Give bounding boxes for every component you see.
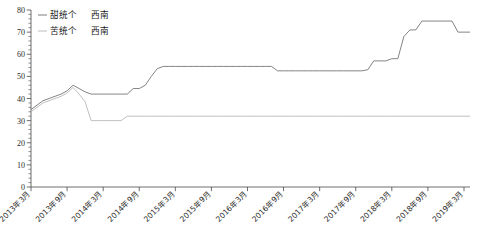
x-axis-tick-label: 2013年9月 xyxy=(33,188,68,223)
y-axis-tick-label: 60 xyxy=(17,50,25,59)
line-chart: 010203040506070802013年3月2013年9月2014年3月20… xyxy=(0,0,478,240)
y-axis-tick-label: 20 xyxy=(17,139,25,148)
x-axis-tick-label: 2015年3月 xyxy=(141,188,176,223)
y-axis-tick-label: 40 xyxy=(17,95,25,104)
x-axis-tick-label: 2019年3月 xyxy=(430,188,465,223)
y-axis-tick-label: 70 xyxy=(17,28,25,37)
x-axis-tick-label: 2017年3月 xyxy=(286,188,321,223)
x-axis-tick-label: 2016年3月 xyxy=(213,188,248,223)
y-axis-tick-label: 50 xyxy=(17,72,25,81)
legend-region-1: 西南 xyxy=(91,9,109,20)
x-axis-tick-label: 2014年3月 xyxy=(69,188,104,223)
x-axis-tick-label: 2018年9月 xyxy=(394,188,429,223)
x-axis-tick-label: 2017年9月 xyxy=(322,188,357,223)
x-axis-tick-label: 2015年9月 xyxy=(177,188,212,223)
legend-label-1: 甜统个 xyxy=(50,9,77,20)
x-axis-tick-label: 2013年3月 xyxy=(0,188,32,223)
legend-label-2: 苦统个 xyxy=(50,25,77,36)
x-axis-tick-label: 2016年9月 xyxy=(250,188,285,223)
y-axis-tick-label: 10 xyxy=(17,161,25,170)
x-axis-tick-label: 2014年9月 xyxy=(105,188,140,223)
y-axis-tick-label: 80 xyxy=(17,6,25,15)
series-line-2 xyxy=(31,87,470,120)
x-axis-tick-label: 2018年3月 xyxy=(358,188,393,223)
y-axis-tick-label: 30 xyxy=(17,117,25,126)
legend-region-2: 西南 xyxy=(91,25,109,36)
chart-container: 010203040506070802013年3月2013年9月2014年3月20… xyxy=(0,0,478,240)
